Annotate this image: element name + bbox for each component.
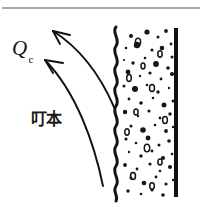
material-annotation-label: 叮本 xyxy=(31,104,61,130)
heat-flux-subscript: c xyxy=(28,53,33,65)
heat-flux-symbol: Q xyxy=(12,36,27,60)
heat-flux-label: Qc xyxy=(12,36,32,62)
